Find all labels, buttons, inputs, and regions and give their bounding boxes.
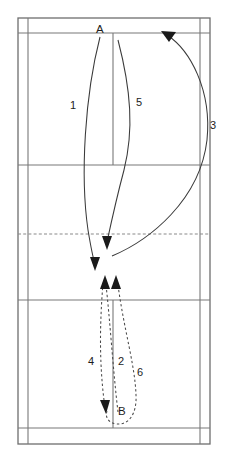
shot-path-3 (112, 35, 208, 256)
shot-path-5 (107, 40, 130, 242)
shot-path-2 (106, 285, 118, 412)
court-outer-boundary (18, 18, 210, 444)
shot-path-1 (84, 37, 100, 264)
badminton-court-diagram: A B 1 2 3 4 5 6 (0, 0, 228, 470)
shot-arrowhead-6 (111, 275, 121, 289)
shot-arrowhead-5 (102, 236, 112, 250)
court-svg (0, 0, 228, 470)
shot-label-2: 2 (118, 356, 124, 367)
shot-label-3: 3 (210, 120, 216, 131)
player-label-b: B (118, 406, 126, 418)
shot-label-5: 5 (136, 97, 142, 108)
shot-label-4: 4 (88, 356, 94, 367)
trajectories-group (84, 31, 208, 424)
shot-label-1: 1 (70, 100, 76, 111)
shot-arrowhead-2 (100, 275, 110, 289)
court-lines-group (18, 18, 210, 444)
shot-arrowhead-4 (100, 400, 110, 414)
player-label-a: A (96, 24, 104, 36)
shot-label-6: 6 (137, 367, 143, 378)
shot-arrowhead-1 (90, 257, 100, 271)
